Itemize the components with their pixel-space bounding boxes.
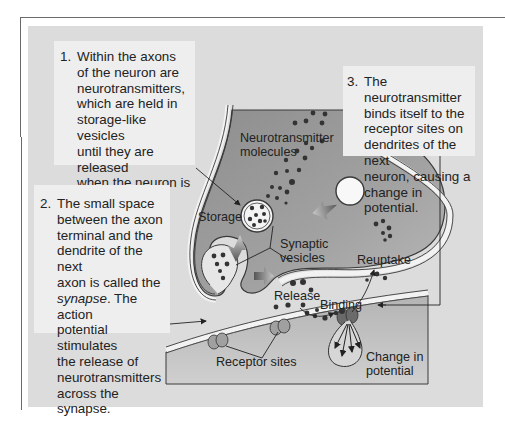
label-neurotransmitter-molecules-line2: molecules bbox=[240, 145, 297, 159]
synapse-term: synapse bbox=[57, 291, 107, 306]
label-reuptake: Reuptake bbox=[357, 253, 411, 267]
label-storage: Storage bbox=[198, 210, 242, 224]
callout-step-2-text: The small space between the axon termina… bbox=[40, 196, 170, 417]
callout-step-2-number: 2. bbox=[40, 196, 51, 212]
callout-step-3: 3. The neurotransmitter binds itself to … bbox=[343, 66, 475, 156]
storage-vesicle bbox=[241, 200, 273, 232]
callout-step-1: 1. Within the axons of the neuron are ne… bbox=[54, 41, 195, 165]
callout-step-3-number: 3. bbox=[347, 74, 358, 90]
label-synaptic-vesicles-line1: Synaptic bbox=[280, 237, 328, 251]
label-change-in-potential-line2: potential bbox=[366, 364, 414, 378]
label-neurotransmitter-molecules-line1: Neurotransmitter bbox=[240, 131, 334, 145]
label-release: Release bbox=[274, 289, 320, 303]
label-synaptic-vesicles-line2: vesicles bbox=[280, 251, 325, 265]
label-change-in-potential-line1: Change in bbox=[366, 350, 423, 364]
label-binding: Binding bbox=[320, 298, 362, 312]
callout-step-3-text: The neurotransmitter binds itself to the… bbox=[347, 74, 475, 216]
callout-step-1-text: Within the axons of the neuron are neuro… bbox=[60, 49, 195, 207]
callout-step-1-number: 1. bbox=[60, 49, 71, 65]
callout-step-2: 2. The small space between the axon term… bbox=[34, 185, 170, 333]
label-receptor-sites: Receptor sites bbox=[216, 355, 297, 369]
